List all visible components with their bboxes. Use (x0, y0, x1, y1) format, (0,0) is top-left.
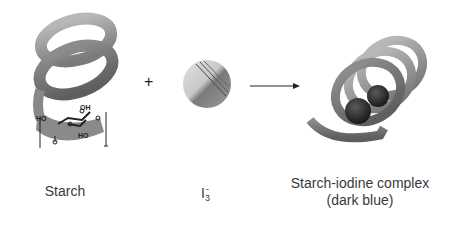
iodine-ball-front (345, 98, 371, 124)
oh-label: OH (80, 104, 91, 111)
iodine-ball-back (367, 85, 389, 107)
triiodide-label: I3- (190, 181, 220, 207)
starch-label: Starch (25, 183, 105, 200)
triiodide-sup: - (206, 184, 209, 194)
ho-label-bottom: HO (78, 132, 89, 139)
complex-label-line1: Starch-iodine complex (270, 175, 450, 192)
complex-label: Starch-iodine complex (dark blue) (270, 175, 450, 209)
molecule-sphere-icon (183, 60, 231, 108)
helix-icon: HO OH HO (33, 11, 119, 148)
triiodide-sub: 3 (205, 193, 210, 203)
helix-with-iodine-icon (310, 29, 433, 137)
ho-label-left: HO (36, 115, 47, 122)
complex-label-line2: (dark blue) (270, 192, 450, 209)
reaction-arrow (250, 83, 300, 89)
plus-operator: + (144, 73, 153, 91)
